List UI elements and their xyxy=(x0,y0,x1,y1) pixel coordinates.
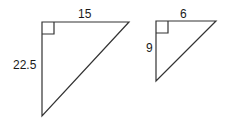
large-top-side-label: 15 xyxy=(78,8,91,20)
small-right-angle-marker xyxy=(156,21,168,33)
large-right-angle-marker xyxy=(42,22,54,34)
large-left-side-label: 22.5 xyxy=(13,59,36,71)
small-top-side-label: 6 xyxy=(180,8,187,20)
small-triangle xyxy=(156,21,216,81)
large-triangle xyxy=(42,22,129,116)
small-left-side-label: 9 xyxy=(146,42,153,54)
